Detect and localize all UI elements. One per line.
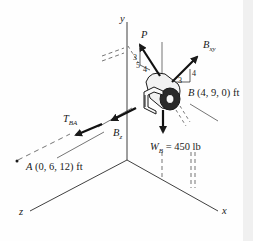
y-axis-label: y [120,14,125,25]
force-Bz-arrow [112,108,136,120]
force-P-label: P [141,30,147,41]
point-A-coords: (0, 6, 12) ft [35,161,83,172]
Bxy-slope-run: 3 [178,77,182,85]
force-Bxy-label: Bxy [203,40,216,51]
P-slope-run: 4 [143,66,147,74]
x-axis-line [127,160,218,211]
Bxy-slope-rise: 4 [192,70,196,78]
point-B-label: B (4, 9, 0) ft [188,88,239,99]
weight-WB-label: WB = 450 lb [150,142,201,153]
Bxy-subscript: xy [209,45,215,53]
P-slope-hyp: 5 [136,62,140,70]
point-A-dot [16,160,19,163]
TBA-subscript: BA [69,119,78,127]
WB-value: 450 lb [174,141,201,152]
force-TBA-arrow [76,124,102,135]
Bz-subscript: z [119,133,122,141]
point-A-letter: A [26,161,32,172]
WB-equals: = [166,141,172,152]
point-A-label: A (0, 6, 12) ft [26,162,83,173]
z-axis-label: z [19,207,23,218]
point-B-letter: B [188,87,194,98]
diagram-canvas: y x z P 3 5 4 Bxy 4 3 B (4, 9, 0) ft TBA… [0,0,253,241]
dashed-to-A [18,134,70,160]
WB-symbol: W [150,141,159,152]
force-Bz-label: Bz [113,128,122,139]
x-axis-label: x [222,206,227,217]
axes [30,22,218,211]
WB-subscript: B [159,147,163,155]
point-B-coords: (4, 9, 0) ft [197,87,239,98]
force-TBA-label: TBA [63,114,77,125]
diagram-svg [0,0,253,241]
TBA-symbol: T [63,113,69,124]
